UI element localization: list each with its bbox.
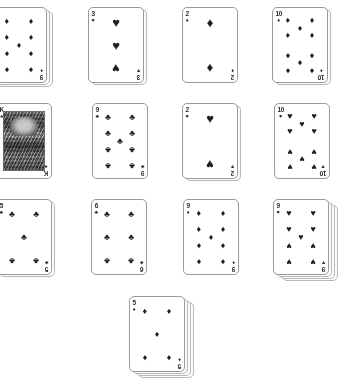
- card-suit-pip: ♥: [287, 146, 292, 155]
- card-rank: 10: [320, 169, 326, 176]
- card-suit-pip: ♦: [29, 65, 34, 74]
- card-rank: 2: [231, 169, 234, 176]
- card-suit-pip: ♦: [17, 41, 22, 50]
- card-pip-field: ♦♦♦♦♦♦♦♦♦: [192, 205, 230, 269]
- card-suit-pip: ♦: [207, 15, 214, 28]
- card-rank: 9: [322, 265, 325, 272]
- playing-card[interactable]: 10♦10♦♦♦♦♦♦♦♦♦♦♦: [272, 7, 328, 83]
- card-slot[interactable]: 5♦5♦♦♦♦♦♦: [129, 296, 194, 378]
- card-suit-icon: ♦: [186, 18, 189, 24]
- card-corner-index: 5♦: [133, 300, 136, 313]
- card-slot[interactable]: 9♦9♦♦♦♦♦♦♦♦♦♦: [183, 199, 239, 275]
- card-slot[interactable]: 9♦9♦♦♦♦♦♦♦♦♦♦: [0, 7, 53, 87]
- playing-card[interactable]: 2♦2♦♦♦: [182, 7, 238, 83]
- card-suit-pip: ♥: [286, 208, 291, 217]
- playing-card[interactable]: K♠K♠: [0, 103, 52, 179]
- card-slot[interactable]: K♠K♠: [0, 103, 52, 179]
- card-pip-field: ♥♥: [191, 109, 229, 173]
- card-suit-pip: ♥: [311, 112, 316, 121]
- card-slot[interactable]: 10♥10♥♥♥♥♥♥♥♥♥♥♥: [274, 103, 330, 179]
- card-suit-pip: ♦: [29, 32, 34, 41]
- playing-card[interactable]: 9♣9♣♣♣♣♣♣♣♣♣♣: [92, 103, 148, 179]
- card-corner-index: 2♥: [186, 107, 189, 120]
- card-suit-icon: ♠: [45, 163, 48, 169]
- card-slot[interactable]: 9♥9♥♥♥♥♥♥♥♥♥♥: [273, 199, 338, 281]
- card-suit-pip: ♣: [105, 112, 111, 121]
- card-slot[interactable]: 9♣9♣♣♣♣♣♣♣♣♣♣: [92, 103, 148, 179]
- card-corner-index: 6♣: [140, 259, 144, 272]
- card-suit-pip: ♦: [310, 50, 315, 59]
- card-slot[interactable]: 10♦10♦♦♦♦♦♦♦♦♦♦♦: [272, 7, 331, 85]
- card-suit-pip: ♣: [128, 256, 134, 265]
- playing-card[interactable]: 9♦9♦♦♦♦♦♦♦♦♦♦: [0, 7, 47, 83]
- card-rank: 5: [178, 362, 181, 369]
- card-suit-icon: ♣: [96, 114, 100, 120]
- card-suit-pip: ♥: [112, 39, 120, 52]
- card-corner-index: 9♦: [40, 67, 43, 80]
- card-suit-pip: ♦: [155, 330, 160, 339]
- card-suit-pip: ♦: [298, 24, 303, 33]
- card-suit-pip: ♣: [105, 145, 111, 154]
- card-suit-pip: ♣: [117, 137, 123, 146]
- card-suit-pip: ♥: [286, 224, 291, 233]
- playing-card[interactable]: 10♥10♥♥♥♥♥♥♥♥♥♥♥: [274, 103, 330, 179]
- card-suit-pip: ♥: [310, 224, 315, 233]
- playing-card[interactable]: 6♣6♣♣♣♣♣♣♣: [91, 199, 147, 275]
- card-suit-icon: ♥: [279, 114, 282, 120]
- card-suit-pip: ♦: [286, 65, 291, 74]
- card-suit-pip: ♦: [143, 306, 148, 315]
- playing-card[interactable]: 9♥9♥♥♥♥♥♥♥♥♥♥: [273, 199, 329, 275]
- card-suit-pip: ♦: [167, 353, 172, 362]
- card-suit-pip: ♦: [197, 224, 202, 233]
- card-suit-icon: ♦: [178, 356, 181, 362]
- card-suit-pip: ♦: [221, 241, 226, 250]
- playing-card[interactable]: 3♥3♥♥♥♥: [88, 7, 144, 83]
- card-corner-index: 10♥: [320, 163, 326, 176]
- playing-card[interactable]: 5♦5♦♦♦♦♦♦: [129, 296, 185, 372]
- card-suit-pip: ♣: [105, 128, 111, 137]
- card-rank: 2: [231, 73, 234, 80]
- card-suit-icon: ♦: [232, 259, 235, 265]
- playing-card[interactable]: 2♥2♥♥♥: [182, 103, 238, 179]
- card-suit-pip: ♦: [221, 224, 226, 233]
- card-suit-pip: ♦: [197, 257, 202, 266]
- card-suit-pip: ♣: [129, 145, 135, 154]
- card-corner-index: 9♣: [96, 107, 100, 120]
- card-corner-index: 6♣: [95, 203, 99, 216]
- card-slot[interactable]: 6♣6♣♣♣♣♣♣♣: [91, 199, 147, 275]
- playing-card[interactable]: 9♦9♦♦♦♦♦♦♦♦♦♦: [183, 199, 239, 275]
- card-suit-pip: ♥: [112, 62, 120, 75]
- card-suit-icon: ♦: [40, 67, 43, 73]
- card-suit-icon: ♥: [137, 67, 140, 73]
- card-suit-pip: ♦: [143, 353, 148, 362]
- card-rank: 6: [140, 265, 143, 272]
- card-suit-pip: ♦: [29, 16, 34, 25]
- card-suit-pip: ♥: [299, 120, 304, 129]
- card-suit-pip: ♥: [310, 208, 315, 217]
- card-corner-index: 5♣: [0, 203, 3, 216]
- card-suit-pip: ♦: [5, 65, 10, 74]
- card-slot[interactable]: 2♦2♦♦♦: [182, 7, 238, 83]
- card-pip-field: ♥♥♥♥♥♥♥♥♥♥: [283, 109, 321, 173]
- card-suit-pip: ♥: [112, 15, 120, 28]
- card-pip-field: ♣♣♣♣♣: [5, 205, 43, 269]
- card-suit-pip: ♦: [5, 16, 10, 25]
- card-suit-pip: ♣: [9, 256, 15, 265]
- card-rank: 3: [137, 73, 140, 80]
- card-suit-icon: ♣: [141, 163, 145, 169]
- card-suit-pip: ♣: [104, 256, 110, 265]
- card-slot[interactable]: 3♥3♥♥♥♥: [88, 7, 147, 85]
- card-suit-pip: ♦: [286, 16, 291, 25]
- card-suit-pip: ♦: [298, 57, 303, 66]
- card-corner-index: 2♥: [231, 163, 234, 176]
- card-suit-icon: ♣: [0, 210, 3, 216]
- card-suit-icon: ♥: [92, 18, 95, 24]
- card-suit-icon: ♥: [322, 163, 325, 169]
- card-pip-field: ♥♥♥: [97, 13, 135, 77]
- card-slot[interactable]: 5♣5♣♣♣♣♣♣: [0, 199, 55, 277]
- card-slot[interactable]: 2♥2♥♥♥: [182, 103, 241, 181]
- playing-card[interactable]: 5♣5♣♣♣♣♣♣: [0, 199, 52, 275]
- card-suit-pip: ♥: [310, 257, 315, 266]
- card-pip-field: ♦♦♦♦♦♦♦♦♦♦: [281, 13, 319, 77]
